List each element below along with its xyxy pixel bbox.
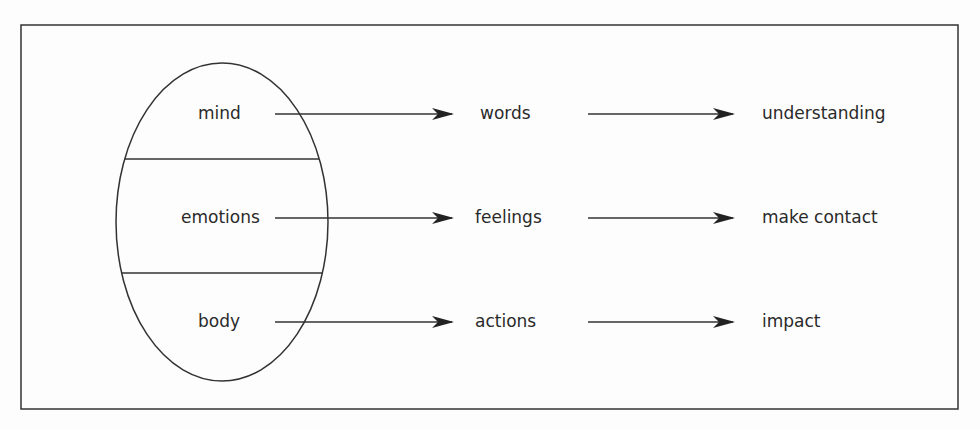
label-actions: actions (475, 311, 536, 331)
label-mind: mind (198, 103, 241, 123)
label-understanding: understanding (762, 103, 886, 123)
label-feelings: feelings (475, 207, 542, 227)
label-impact: impact (762, 311, 821, 331)
label-words: words (480, 103, 531, 123)
label-body: body (198, 311, 240, 331)
label-emotions: emotions (181, 207, 260, 227)
label-make-contact: make contact (762, 207, 878, 227)
